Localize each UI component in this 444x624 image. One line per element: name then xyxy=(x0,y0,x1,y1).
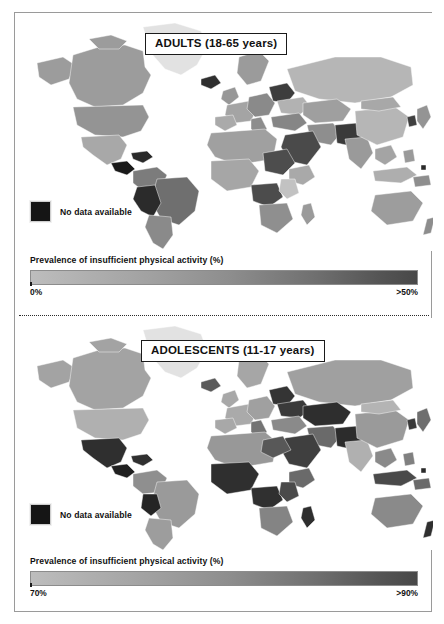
region-philippines xyxy=(403,452,415,466)
no-data-legend-adolescents: No data available xyxy=(30,504,132,525)
no-data-label: No data available xyxy=(60,207,132,217)
legend-adults: Prevalence of insufficient physical acti… xyxy=(15,255,431,297)
colorbar-adolescents xyxy=(30,571,418,586)
colorbar-ticks-adults: 0% >50% xyxy=(30,285,418,297)
colorbar-ticks-adolescents: 70% >90% xyxy=(30,586,418,598)
colorbar-max-label-adolescents: >90% xyxy=(396,588,418,598)
panel-adults: ADULTS (18-65 years) No data available P… xyxy=(15,13,431,315)
colorbar-min-label-adults: 0% xyxy=(30,287,42,297)
panel-title-adolescents: ADOLESCENTS (11-17 years) xyxy=(141,340,325,362)
region-pacific-island xyxy=(421,468,426,473)
panel-divider xyxy=(19,315,429,316)
no-data-legend-adults: No data available xyxy=(30,201,132,222)
panel-adolescents: ADOLESCENTS (11-17 years) No data availa… xyxy=(15,318,431,613)
colorbar-notch-icon xyxy=(30,583,32,587)
legend-title-adults: Prevalence of insufficient physical acti… xyxy=(30,255,431,265)
region-papua-new-guinea xyxy=(413,478,431,490)
region-pacific-island xyxy=(421,165,426,170)
colorbar-min-label-adolescents: 70% xyxy=(30,588,47,598)
no-data-swatch-icon xyxy=(30,201,51,222)
region-papua-new-guinea xyxy=(413,175,431,187)
no-data-swatch-icon xyxy=(30,504,51,525)
region-philippines xyxy=(403,149,415,163)
region-korea xyxy=(407,418,417,430)
no-data-label: No data available xyxy=(60,510,132,520)
legend-title-adolescents: Prevalence of insufficient physical acti… xyxy=(30,556,431,566)
colorbar-notch-icon xyxy=(30,282,32,286)
colorbar-adults xyxy=(30,270,418,285)
colorbar-max-label-adults: >50% xyxy=(396,287,418,297)
figure-container: ADULTS (18-65 years) No data available P… xyxy=(14,12,432,612)
legend-adolescents: Prevalence of insufficient physical acti… xyxy=(15,556,431,598)
region-korea xyxy=(407,115,417,127)
panel-title-adults: ADULTS (18-65 years) xyxy=(145,33,287,55)
